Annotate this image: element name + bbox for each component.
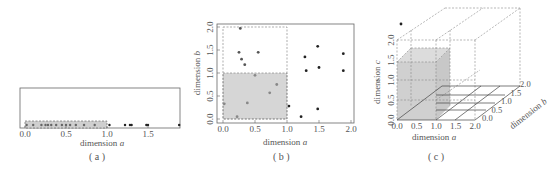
data-point (300, 115, 303, 118)
x-tick-label: 1.5 (142, 129, 154, 139)
data-point (69, 124, 71, 126)
data-point (130, 124, 132, 126)
data-point (240, 58, 243, 61)
data-point (178, 124, 180, 126)
chart-c: 0.00.51.01.52.00.00.51.01.52.00.00.51.01… (370, 0, 550, 172)
data-point (147, 124, 149, 126)
x-tick-label: 2.0 (345, 124, 357, 134)
caption-b: ( b ) (273, 151, 290, 162)
y-axis-label: dimension b (508, 96, 549, 131)
data-point (316, 107, 319, 110)
y-tick-label: 2.0 (205, 21, 215, 33)
x-tick-label: 0.0 (19, 129, 31, 139)
data-point (304, 56, 307, 59)
data-point (50, 124, 52, 126)
x-tick-label: 1.5 (313, 124, 325, 134)
data-point (316, 45, 319, 48)
data-point (94, 124, 96, 126)
x-tick-label: 1.0 (281, 124, 293, 134)
z-tick-label: 1.5 (386, 54, 396, 66)
x-axis-label: dimension a (80, 138, 125, 148)
data-point (257, 51, 260, 54)
z-tick-label: 0.0 (386, 114, 396, 126)
x-axis-label: dimension a (412, 132, 457, 142)
y-tick-label: 0.5 (492, 105, 503, 115)
highlight-front-face (397, 62, 436, 120)
data-point (65, 124, 67, 126)
data-point (268, 91, 271, 94)
data-point (288, 105, 291, 108)
data-point (83, 124, 85, 126)
data-point (108, 124, 110, 126)
data-point (75, 124, 77, 126)
y-tick-label: 0.0 (482, 113, 493, 123)
data-point (55, 124, 57, 126)
x-tick-label: 0.5 (249, 124, 261, 134)
y-tick-label: 1.0 (205, 67, 215, 79)
y-tick-label: 1.5 (511, 88, 522, 98)
x-tick-label: 1.0 (430, 121, 442, 131)
panel-b: 0.00.51.01.52.00.00.51.01.52.0 dimension… (190, 0, 370, 172)
y-tick-label: 0.0 (205, 113, 215, 125)
z-tick-label: 1.0 (386, 74, 396, 86)
z-axis-label: dimension c (372, 60, 382, 104)
data-point (400, 23, 403, 26)
data-point (47, 124, 49, 126)
x-tick-label: 0.5 (60, 129, 72, 139)
data-point (275, 83, 278, 86)
data-point (223, 102, 226, 105)
data-point (25, 124, 27, 126)
x-tick-label: 0.0 (217, 124, 229, 134)
data-point (44, 124, 46, 126)
highlight-region (223, 73, 287, 119)
y-tick-label: 1.5 (205, 44, 215, 56)
data-point (40, 124, 42, 126)
data-point (61, 124, 63, 126)
x-tick-label: 1.5 (450, 121, 462, 131)
x-axis-label: dimension a (263, 137, 308, 147)
chart-a: 0.00.51.01.5 dimension a (0, 0, 190, 172)
panel-a: 0.00.51.01.5 dimension a ( a ) (0, 0, 190, 172)
data-point (243, 63, 246, 66)
y-axis-label: dimension b (192, 50, 202, 95)
caption-c: ( c ) (428, 151, 444, 162)
data-point (124, 124, 126, 126)
data-point (238, 51, 241, 54)
data-point (236, 115, 239, 118)
chart-b: 0.00.51.01.52.00.00.51.01.52.0 dimension… (190, 0, 370, 172)
data-point (318, 66, 321, 69)
data-point (246, 102, 249, 105)
caption-a: ( a ) (89, 151, 105, 162)
data-point (254, 74, 257, 77)
y-tick-label: 0.5 (205, 90, 215, 102)
z-tick-label: 0.5 (386, 94, 396, 106)
panel-c: 0.00.51.01.52.00.00.51.01.52.00.00.51.01… (370, 0, 550, 172)
data-point (342, 69, 345, 72)
z-tick-label: 2.0 (386, 34, 396, 46)
x-tick-label: 0.5 (411, 121, 423, 131)
data-point (305, 69, 308, 72)
y-tick-label: 2.0 (520, 79, 531, 89)
data-point (32, 124, 34, 126)
y-tick-label: 1.0 (501, 96, 512, 106)
data-point (239, 27, 242, 30)
x-tick-label: 2.0 (469, 121, 481, 131)
data-point (342, 52, 345, 55)
